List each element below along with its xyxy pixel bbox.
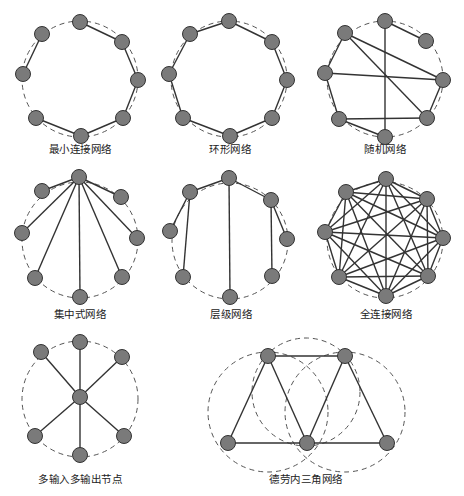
network-node: [264, 193, 279, 208]
network-node: [15, 226, 30, 241]
dashed-boundary-circle: [285, 352, 405, 472]
network-node: [131, 73, 146, 88]
network-node: [280, 73, 295, 88]
diagram-fully-connected: [318, 172, 451, 304]
network-node: [421, 269, 436, 284]
network-node: [339, 185, 354, 200]
diagram-ring: [162, 14, 295, 144]
network-node: [29, 111, 44, 126]
network-node: [35, 184, 50, 199]
network-node: [116, 111, 131, 126]
edge-line: [345, 356, 387, 443]
edge-line: [228, 356, 268, 443]
label-mimo-node: 多输入多输出节点: [38, 471, 122, 486]
edge-line: [386, 238, 443, 296]
network-node: [300, 436, 315, 451]
diagram-random: [318, 14, 451, 145]
network-node: [222, 171, 237, 186]
edge-line: [79, 177, 80, 297]
network-node: [73, 15, 88, 30]
network-node: [176, 111, 191, 126]
network-node: [338, 26, 353, 41]
diagram-mimo-node: [22, 335, 138, 463]
network-node: [318, 66, 333, 81]
label-centralized-network: 集中式网络: [54, 306, 107, 321]
network-node: [221, 436, 236, 451]
network-node: [318, 225, 333, 240]
network-node: [338, 349, 353, 364]
edge-line: [339, 199, 427, 277]
network-node: [436, 73, 451, 88]
label-ring-network: 环形网络: [209, 141, 251, 156]
network-node: [117, 429, 132, 444]
edge-line: [79, 177, 137, 238]
edge-line: [22, 177, 79, 233]
network-node: [115, 270, 130, 285]
network-node: [261, 349, 276, 364]
edge-line: [339, 118, 427, 119]
network-node: [265, 35, 280, 50]
label-random-network: 随机网络: [364, 141, 406, 156]
network-node: [73, 335, 88, 350]
network-node: [332, 112, 347, 127]
diagram-min-connected: [16, 15, 146, 144]
network-node: [16, 67, 31, 82]
network-node: [114, 190, 129, 205]
label-min-connected-network: 最小连接网络: [49, 141, 112, 156]
diagram-hierarchical: [163, 171, 295, 305]
network-node: [223, 290, 238, 305]
network-node: [280, 232, 295, 247]
network-node: [265, 111, 280, 126]
label-hierarchical-network: 层级网络: [210, 306, 252, 321]
network-node: [34, 345, 49, 360]
network-node: [35, 27, 50, 42]
network-node: [183, 185, 198, 200]
network-node: [420, 192, 435, 207]
network-node: [332, 270, 347, 285]
network-node: [115, 350, 130, 365]
network-node: [73, 390, 88, 405]
network-node: [436, 231, 451, 246]
dashed-boundary-circle: [208, 352, 328, 472]
edge-line: [80, 397, 124, 436]
network-node: [378, 14, 393, 29]
edge-line: [35, 397, 80, 436]
network-node: [28, 271, 43, 286]
network-node: [130, 231, 145, 246]
edge-line: [41, 352, 80, 397]
edge-line: [427, 199, 428, 276]
network-node: [176, 270, 191, 285]
network-node: [73, 448, 88, 463]
network-node: [419, 34, 434, 49]
network-node: [379, 289, 394, 304]
edge-line: [339, 276, 428, 277]
edge-line: [307, 356, 345, 443]
network-node: [379, 172, 394, 187]
network-node: [115, 35, 130, 50]
network-node: [73, 290, 88, 305]
network-node: [72, 170, 87, 185]
diagram-delaunay: [208, 338, 405, 472]
edge-line: [271, 200, 272, 276]
diagram-centralized: [15, 170, 145, 305]
network-node: [163, 224, 178, 239]
edge-line: [80, 357, 122, 397]
network-node: [380, 436, 395, 451]
network-node: [162, 67, 177, 82]
network-node: [183, 27, 198, 42]
network-node: [28, 429, 43, 444]
edge-line: [268, 356, 307, 443]
network-node: [265, 269, 280, 284]
network-node: [420, 111, 435, 126]
label-delaunay-network: 德劳内三角网络: [269, 471, 343, 486]
label-fully-connected-network: 全连接网络: [360, 306, 413, 321]
network-node: [222, 14, 237, 29]
network-topology-figure: [0, 0, 464, 496]
edge-line: [229, 178, 230, 297]
